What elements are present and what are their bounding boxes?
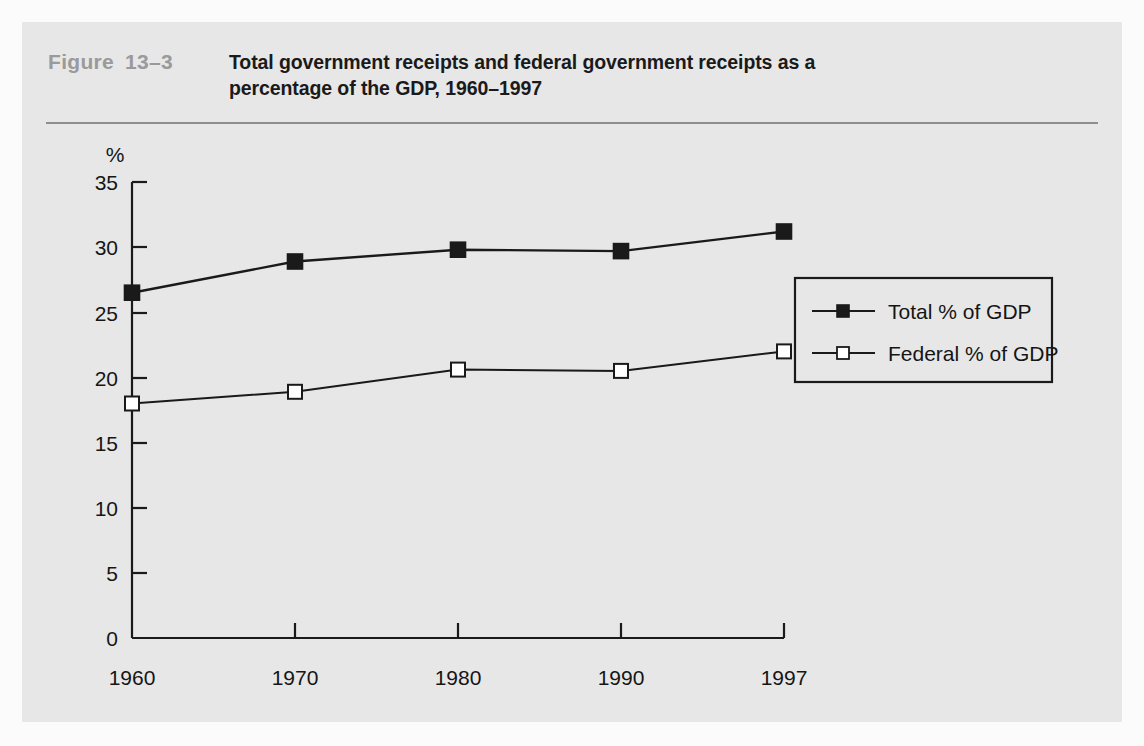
series-total-percent-of-gdp — [125, 224, 792, 300]
chart-area: % 35 30 25 — [22, 22, 1122, 722]
data-point-federal-1997 — [777, 344, 791, 358]
x-axis-labels: 1960 1970 1980 1990 1997 — [109, 666, 808, 689]
legend-box — [795, 278, 1052, 382]
line-chart: % 35 30 25 — [22, 22, 1122, 722]
data-point-federal-1970 — [288, 385, 302, 399]
scanned-page: Figure13–3 Total government receipts and… — [0, 0, 1144, 746]
legend-marker-open-square-icon — [837, 347, 849, 359]
y-label-25: 25 — [95, 302, 118, 325]
data-point-total-1997 — [777, 224, 792, 239]
data-point-federal-1990 — [614, 364, 628, 378]
y-axis-ticks — [132, 182, 147, 573]
data-point-total-1960 — [125, 285, 140, 300]
x-label-1990: 1990 — [598, 666, 645, 689]
data-point-total-1970 — [288, 254, 303, 269]
legend-label-total: Total % of GDP — [888, 300, 1032, 323]
y-label-20: 20 — [95, 367, 118, 390]
data-point-federal-1980 — [451, 363, 465, 377]
data-point-total-1980 — [451, 242, 466, 257]
legend-label-federal: Federal % of GDP — [888, 342, 1058, 365]
y-label-5: 5 — [106, 562, 118, 585]
x-label-1980: 1980 — [435, 666, 482, 689]
legend-marker-filled-square-icon — [837, 305, 849, 317]
y-axis-labels: 35 30 25 20 15 10 5 0 — [95, 171, 118, 650]
y-label-15: 15 — [95, 432, 118, 455]
y-label-0: 0 — [106, 627, 118, 650]
series-federal-percent-of-gdp — [125, 344, 791, 410]
y-label-10: 10 — [95, 497, 118, 520]
figure-panel: Figure13–3 Total government receipts and… — [22, 22, 1122, 722]
x-label-1970: 1970 — [272, 666, 319, 689]
data-point-total-1990 — [614, 244, 629, 259]
y-axis-unit-label: % — [106, 143, 125, 166]
data-point-federal-1960 — [125, 397, 139, 411]
x-label-1960: 1960 — [109, 666, 156, 689]
x-axis-ticks — [295, 623, 784, 638]
y-label-30: 30 — [95, 236, 118, 259]
series-line-total — [132, 232, 784, 293]
x-label-1997: 1997 — [761, 666, 808, 689]
chart-legend: Total % of GDP Federal % of GDP — [795, 278, 1058, 382]
y-label-35: 35 — [95, 171, 118, 194]
